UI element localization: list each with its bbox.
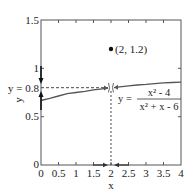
y-axis-label: y	[12, 97, 24, 103]
equation-lhs: y =	[118, 93, 132, 104]
x-tick-4: 4	[178, 167, 184, 179]
curve-left-branch	[41, 88, 108, 101]
equation-denominator: x² + x - 6	[140, 101, 179, 112]
curve-arrow-right-icon	[114, 85, 118, 90]
y-tick-0.5: 0.5	[25, 110, 39, 122]
x-axis-label: x	[108, 179, 114, 191]
y-tick-1: 1	[34, 62, 40, 74]
chart: 0 0.5 1 1.5 2 2.5 3 3.5 4 x 0 0.5 1 1.5 …	[0, 0, 192, 194]
x-tick-labels: 0 0.5 1 1.5 2 2.5 3 3.5 4	[38, 167, 184, 179]
y-arrow-down-icon	[39, 78, 44, 84]
x-tick-1.5: 1.5	[87, 167, 101, 179]
x-tick-3: 3	[143, 167, 149, 179]
y-tick-0: 0	[34, 158, 40, 170]
x-tick-2: 2	[108, 167, 114, 179]
point-label: (2, 1.2)	[115, 43, 147, 56]
limit-label: y = 0.8	[8, 82, 39, 94]
point-marker	[109, 47, 113, 51]
x-arrow-right-icon	[103, 163, 108, 167]
curve-arrow-left-icon	[104, 86, 108, 91]
equation-numerator: x² - 4	[148, 87, 171, 98]
x-tick-0.5: 0.5	[52, 167, 66, 179]
x-tick-2.5: 2.5	[122, 167, 136, 179]
x-tick-1: 1	[73, 167, 79, 179]
hole-bracket-left	[109, 83, 110, 92]
x-tick-3.5: 3.5	[157, 167, 171, 179]
y-arrow-up-icon	[39, 91, 44, 97]
y-tick-1.5: 1.5	[25, 14, 39, 26]
x-tick-0: 0	[38, 167, 44, 179]
x-arrow-left-icon	[114, 163, 119, 167]
hole-bracket-right	[113, 83, 114, 92]
